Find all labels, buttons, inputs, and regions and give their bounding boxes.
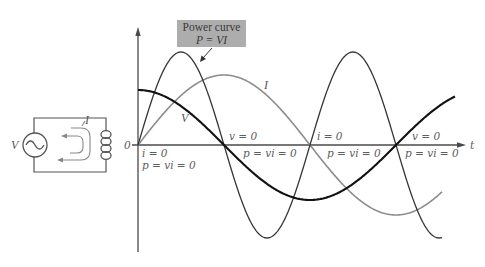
callout-title: Power curve <box>183 21 241 33</box>
annotation-v-zero: v = 0 <box>412 130 440 142</box>
y-axis-arrow-icon <box>135 27 140 36</box>
ac-source-icon <box>23 133 47 157</box>
inductive-ac-power-diagram: V I 0 t I V i = 0 p = vi <box>0 0 485 267</box>
inductor-coil-icon <box>101 131 111 160</box>
circuit-current-label: I <box>84 113 90 127</box>
time-axis-label: t <box>470 139 475 151</box>
annotation-i-zero: i = 0 <box>142 147 168 159</box>
power-curve-callout: Power curve P = VI <box>177 20 246 62</box>
annotation-i-zero: i = 0 <box>317 130 343 142</box>
annotation-p-zero: p = vi = 0 <box>405 147 459 159</box>
zero-crossing-annotations: i = 0 p = vi = 0 v = 0 p = vi = 0 i = 0 … <box>142 130 459 171</box>
current-curve-label: I <box>263 78 269 92</box>
annotation-p-zero: p = vi = 0 <box>327 147 381 159</box>
callout-pointer <box>203 48 212 58</box>
annotation-v-zero: v = 0 <box>229 130 257 142</box>
inductor-circuit: V I <box>11 113 111 172</box>
callout-arrow-icon <box>200 56 206 63</box>
annotation-p-zero: p = vi = 0 <box>142 159 196 171</box>
current-direction-arrow-icon <box>57 121 90 163</box>
annotation-p-zero: p = vi = 0 <box>243 147 297 159</box>
source-voltage-label: V <box>11 138 20 152</box>
callout-equation: P = VI <box>195 34 228 46</box>
origin-label: 0 <box>124 139 131 151</box>
